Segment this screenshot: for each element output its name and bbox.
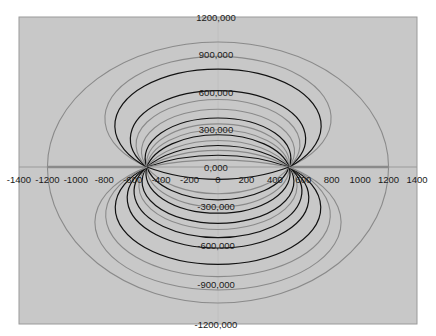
y-tick-label: -1200,000 <box>195 319 238 330</box>
y-tick-label: 900,000 <box>199 49 233 60</box>
y-tick-label: 600,000 <box>199 87 233 98</box>
x-tick-label: -200 <box>180 174 199 185</box>
x-tick-label: -1400 <box>7 174 31 185</box>
x-tick-label: 0 <box>215 174 220 185</box>
x-tick-label: 800 <box>324 174 340 185</box>
x-tick-label: 400 <box>267 174 283 185</box>
x-tick-label: -400 <box>152 174 171 185</box>
x-tick-label: 1000 <box>350 174 371 185</box>
x-tick-label: -1200 <box>35 174 59 185</box>
x-tick-label: 1200 <box>378 174 399 185</box>
x-tick-label: 200 <box>238 174 254 185</box>
x-tick-labels: -1400-1200-1000-800-600-400-200020040060… <box>7 174 428 185</box>
x-tick-label: -800 <box>95 174 114 185</box>
x-tick-label: -600 <box>123 174 142 185</box>
x-tick-label: 1400 <box>406 174 427 185</box>
x-tick-label: 600 <box>295 174 311 185</box>
contour-chart: -1400-1200-1000-800-600-400-200020040060… <box>0 0 436 336</box>
y-tick-label: -300,000 <box>197 201 235 212</box>
y-tick-label: 300,000 <box>199 124 233 135</box>
y-tick-label: -600,000 <box>197 240 235 251</box>
y-tick-label: 0,000 <box>204 162 228 173</box>
y-tick-label: 1200,000 <box>196 12 236 23</box>
x-tick-label: -1000 <box>64 174 88 185</box>
y-tick-label: -900,000 <box>197 279 235 290</box>
